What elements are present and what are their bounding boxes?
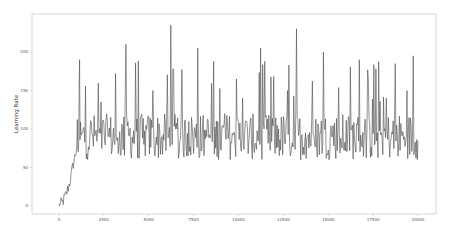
x-tick-label: 15000 bbox=[322, 217, 335, 222]
x-tick-label: 10000 bbox=[232, 217, 245, 222]
y-tick-label: 100 bbox=[20, 126, 28, 131]
x-tick-label: 12500 bbox=[277, 217, 290, 222]
x-tick-label: 17500 bbox=[367, 217, 380, 222]
y-axis-label: Learning Rate bbox=[13, 94, 20, 133]
x-tick-label: 2500 bbox=[99, 217, 110, 222]
x-tick-label: 5000 bbox=[144, 217, 155, 222]
y-tick-label: 150 bbox=[20, 88, 28, 93]
y-axis-ticks: 050100150200 bbox=[20, 49, 32, 208]
x-tick-label: 20000 bbox=[412, 217, 425, 222]
line-chart: 050100150200 025005000750010000125001500… bbox=[0, 0, 449, 232]
y-tick-label: 0 bbox=[25, 203, 28, 208]
x-tick-label: 0 bbox=[58, 217, 61, 222]
x-tick-label: 7500 bbox=[189, 217, 200, 222]
y-tick-label: 200 bbox=[20, 49, 28, 54]
x-axis-ticks: 02500500075001000012500150001750020000 bbox=[58, 214, 425, 222]
y-tick-label: 50 bbox=[23, 165, 29, 170]
